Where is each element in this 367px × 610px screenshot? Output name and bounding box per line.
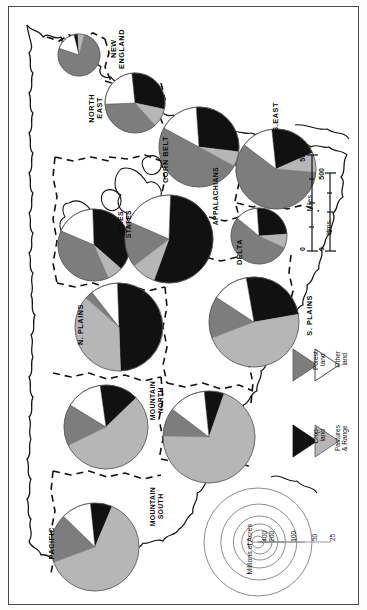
pie-chart[interactable] [105, 73, 165, 133]
region-label-appalachians: APPALACHIANS [212, 167, 220, 225]
scale-kms-label: Kms. [325, 219, 332, 235]
region-label-pacific: PACIFIC [48, 527, 56, 560]
map-frame: NEW ENGLANDNORTH EASTCORN BELTS.EASTLAKE… [8, 6, 359, 605]
region-label-n-plains: N. PLAINS [77, 304, 85, 345]
region-label-lakes-states: LAKES STATES [117, 210, 134, 238]
legend-label-otherland: Other land [334, 351, 349, 368]
pie-chart[interactable] [64, 385, 148, 469]
size-key-caption: Millions of Acres [246, 524, 253, 575]
pie-chart[interactable] [75, 283, 163, 371]
pie-chart[interactable] [236, 129, 316, 209]
legend-label-forestland: Forest- land [312, 349, 327, 370]
scale-kms-tick-max: 500 [318, 168, 325, 180]
region-label-mountain-south: MOUNTAIN SOUTH [149, 487, 166, 526]
scale-miles-label: Miles [306, 195, 313, 211]
size-key-ring-100: 100 [290, 531, 297, 542]
pie-slice-cropland [117, 283, 162, 371]
scale-kms-tick-zero: 0 [318, 247, 325, 251]
pie-chart[interactable] [163, 391, 255, 483]
region-label-north-east: NORTH EAST [88, 94, 105, 123]
region-label-delta: DELTA [236, 239, 244, 265]
legend-swatches [271, 307, 361, 477]
pie-chart[interactable] [159, 107, 239, 187]
figure-page: NEW ENGLANDNORTH EASTCORN BELTS.EASTLAKE… [0, 0, 367, 610]
pie-slice-cropland [257, 208, 287, 236]
scale-miles-tick-max: 500 [299, 150, 306, 162]
pie-chart[interactable] [58, 34, 100, 76]
region-label-corn-belt: CORN BELT [162, 136, 170, 183]
size-key-ring-25: 25 [329, 534, 336, 541]
region-label-new-england: NEW ENGLAND [110, 29, 127, 69]
scale-miles-tick-zero: 0 [299, 247, 306, 251]
pie-chart[interactable] [125, 195, 213, 283]
legend-label-pastures: Pastures & Range [334, 425, 349, 451]
legend-label-cropland: Crop- land [312, 427, 327, 444]
region-label-s-east: S.EAST [272, 102, 280, 132]
size-key-ring-50: 50 [311, 534, 318, 541]
pie-slice-cropland [196, 107, 239, 152]
coastline-outline [27, 25, 347, 573]
size-key-ring-400: 400 [261, 531, 268, 542]
pie-chart[interactable] [51, 503, 139, 591]
region-label-mountain-north: MOUNTAIN NORTH [149, 381, 166, 420]
size-key-ring-200: 200 [268, 531, 275, 542]
